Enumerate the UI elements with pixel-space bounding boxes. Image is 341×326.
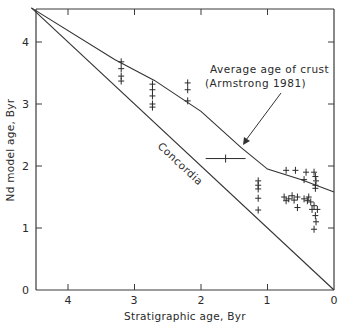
data-point [312,212,318,219]
y-axis-title: Nd model age, Byr [4,98,16,201]
data-point [255,207,261,214]
x-tick-labels: 4 3 2 1 0 [65,294,338,307]
data-point [314,206,320,213]
y-tick-labels: 0 1 2 3 4 [22,36,29,297]
data-point [311,169,317,176]
data-point [118,65,124,72]
data-point [185,86,191,93]
arrow-icon [243,93,281,145]
data-point [312,173,318,180]
data-point [185,79,191,86]
data-point [304,197,310,204]
data-point [311,226,317,233]
data-point [149,104,155,111]
error-bars [206,155,246,163]
y-tick-label: 4 [22,36,29,49]
y-tick-label: 1 [22,222,29,235]
data-point [313,218,319,225]
data-point [303,169,309,176]
data-point [255,195,261,202]
chart: 4 3 2 1 0 0 1 2 3 4 Stratigraphic age, B… [0,0,341,326]
y-tick-label: 0 [22,284,29,297]
data-point [149,92,155,99]
y-tick-label: 3 [22,98,29,111]
crust-annotation-line2: (Armstrong 1981) [205,77,306,89]
concordia-line [31,8,334,290]
data-point [149,86,155,93]
data-point [294,204,300,211]
data-point [118,78,124,85]
x-tick-label: 3 [131,294,138,307]
y-tick-label: 2 [22,160,29,173]
x-tick-label: 1 [264,294,271,307]
data-point [283,167,289,174]
x-axis-title: Stratigraphic age, Byr [124,310,246,322]
error-bar-point [206,155,246,163]
reference-lines [31,8,334,290]
data-point [294,194,300,201]
x-tick-label: 2 [198,294,205,307]
data-point [286,195,292,202]
data-point [255,185,261,192]
data-point [313,177,319,184]
crust-annotation-line1: Average age of crust [210,63,329,75]
data-point [292,167,298,174]
x-tick-label: 4 [65,294,72,307]
data-point [301,195,307,202]
x-tick-label: 0 [331,294,338,307]
